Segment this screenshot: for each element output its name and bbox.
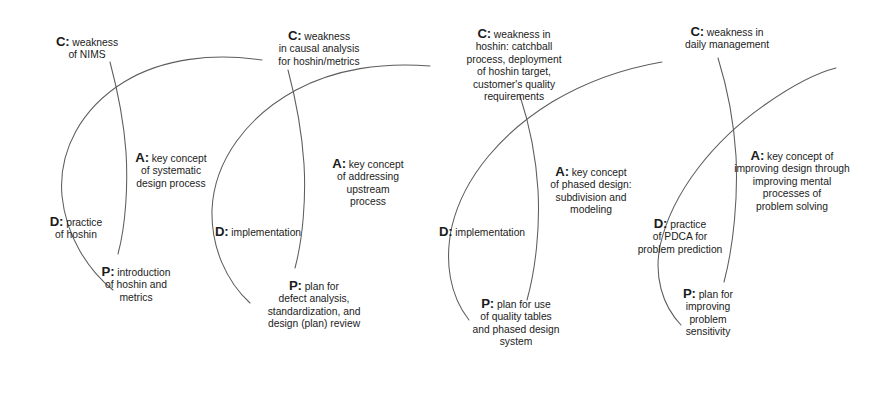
cycle-1-do-key: D: <box>50 214 64 229</box>
cycle-2-check-first-line: C: weakness <box>244 30 394 43</box>
cycle-3-check-key: C: <box>477 26 491 41</box>
cycle-1-check-key: C: <box>56 34 70 49</box>
cycle-1-check-line: of NIMS <box>34 49 140 61</box>
cycle-4-plan-line: sensitivity <box>650 326 766 338</box>
cycle-2-plan-line: defect analysis, <box>230 293 398 305</box>
cycle-3-do-first-line: D: implementation <box>416 226 548 239</box>
cycle-3-plan-node: P: plan for useof quality tablesand phas… <box>444 298 588 349</box>
cycle-2-do-node: D: implementation <box>192 226 324 239</box>
cycle-4-check-key: C: <box>690 24 704 39</box>
cycle-4-plan-node: P: plan forimprovingproblemsensitivity <box>650 288 766 339</box>
cycle-4-plan-line: improving <box>650 301 766 313</box>
cycle-2-act-first-line: A: key concept <box>306 158 430 171</box>
cycle-4-check-line: daily management <box>652 39 802 51</box>
cycle-1-do-line: of hoshin <box>24 229 128 241</box>
cycle-1-plan-line: metrics <box>72 292 200 304</box>
cycle-3-check-line: of hoshin target, <box>438 66 590 78</box>
cycle-3-check-line: requirements <box>438 91 590 103</box>
cycle-1-act-line: of systematic <box>108 165 234 177</box>
cycle-4-do-first-line: D: practice <box>612 218 748 231</box>
cycle-1-do-node: D: practiceof hoshin <box>24 216 128 242</box>
cycle-2-plan-line: design (plan) review <box>230 318 398 330</box>
cycle-1-do-first-line: D: practice <box>24 216 128 229</box>
cycle-3-plan-line: of quality tables <box>444 311 588 323</box>
cycle-2-plan-line: standardization, and <box>230 306 398 318</box>
cycle-2-act-node: A: key conceptof addressingupstreamproce… <box>306 158 430 209</box>
cycle-3-check-line: customer's quality <box>438 79 590 91</box>
cycle-1-act-line: design process <box>108 178 234 190</box>
cycle-2-do-first-line: D: implementation <box>192 226 324 239</box>
cycle-2-plan-first-line: P: plan for <box>230 280 398 293</box>
cycle-4-plan-first-line: P: plan for <box>650 288 766 301</box>
cycle-2-act-line: upstream <box>306 184 430 196</box>
cycle-4-act-key: A: <box>751 148 765 163</box>
cycle-3-do-node: D: implementation <box>416 226 548 239</box>
cycle-4-plan-line: problem <box>650 314 766 326</box>
cycle-2-check-node: C: weaknessin causal analysisfor hoshin/… <box>244 30 394 68</box>
cycle-3-act-line: subdivision and <box>524 192 658 204</box>
cycle-4-do-node: D: practiceof PDCA forproblem prediction <box>612 218 748 256</box>
cycle-2-check-line: for hoshin/metrics <box>244 56 394 68</box>
cycle-3-check-line: process, deployment <box>438 54 590 66</box>
cycle-3-act-node: A: key conceptof phased design:subdivisi… <box>524 166 658 217</box>
cycle-3-act-first-line: A: key concept <box>524 166 658 179</box>
cycle-3-act-line: modeling <box>524 204 658 216</box>
cycle-4-act-node: A: key concept ofimproving design throug… <box>704 150 880 213</box>
diagram-canvas: C: weaknessof NIMS A: key conceptof syst… <box>0 0 885 394</box>
cycle-4-do-key: D: <box>654 216 668 231</box>
cycle-1-plan-node: P: introductionof hoshin andmetrics <box>72 266 200 304</box>
cycle-3-act-line: of phased design: <box>524 179 658 191</box>
cycle-3-plan-line: system <box>444 336 588 348</box>
cycle-3-check-line: hoshin: catchball <box>438 41 590 53</box>
cycle-4-act-line: improving mental <box>704 176 880 188</box>
cycle-2-act-line: process <box>306 196 430 208</box>
cycle-2-act-line: of addressing <box>306 171 430 183</box>
cycle-1-act-key: A: <box>135 150 149 165</box>
cycle-1-check-first-line: C: weakness <box>34 36 140 49</box>
cycle-4-do-line: of PDCA for <box>612 231 748 243</box>
cycle-1-plan-line: of hoshin and <box>72 279 200 291</box>
cycle-4-check-first-line: C: weakness in <box>652 26 802 39</box>
cycle-2-check-line: in causal analysis <box>244 43 394 55</box>
cycle-4-check-node: C: weakness indaily management <box>652 26 802 52</box>
cycle-2-plan-key: P: <box>289 278 302 293</box>
cycle-1-act-first-line: A: key concept <box>108 152 234 165</box>
cycle-4-act-line: processes of <box>704 188 880 200</box>
cycle-1-act-node: A: key conceptof systematicdesign proces… <box>108 152 234 190</box>
cycle-2-do-key: D: <box>215 224 229 239</box>
cycle-4-do-line: problem prediction <box>612 244 748 256</box>
cycle-4-act-line: problem solving <box>704 201 880 213</box>
cycle-2-act-key: A: <box>332 156 346 171</box>
cycle-4-act-line: improving design through <box>704 163 880 175</box>
cycle-4-act-first-line: A: key concept of <box>704 150 880 163</box>
cycle-3-plan-line: and phased design <box>444 324 588 336</box>
cycle-3-act-key: A: <box>555 164 569 179</box>
cycle-1-plan-key: P: <box>102 264 115 279</box>
cycle-1-check-node: C: weaknessof NIMS <box>34 36 140 62</box>
cycle-3-check-node: C: weakness inhoshin: catchballprocess, … <box>438 28 590 103</box>
cycle-4-plan-key: P: <box>683 286 696 301</box>
cycle-3-do-key: D: <box>439 224 453 239</box>
cycle-3-check-first-line: C: weakness in <box>438 28 590 41</box>
cycle-1-plan-first-line: P: introduction <box>72 266 200 279</box>
cycle-3-plan-first-line: P: plan for use <box>444 298 588 311</box>
cycle-2-check-key: C: <box>288 28 302 43</box>
cycle-2-plan-node: P: plan fordefect analysis,standardizati… <box>230 280 398 331</box>
cycle-3-plan-key: P: <box>481 296 494 311</box>
